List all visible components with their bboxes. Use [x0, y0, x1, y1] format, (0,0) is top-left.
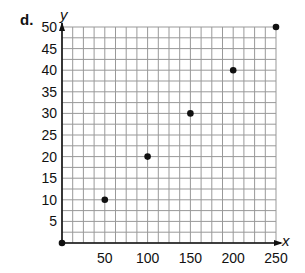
y-tick-label: 10	[41, 192, 57, 208]
y-tick-label: 15	[41, 170, 57, 186]
y-tick-label: 30	[41, 105, 57, 121]
x-tick-label: 100	[136, 250, 160, 266]
data-point	[144, 153, 151, 160]
x-axis-label: x	[281, 232, 290, 249]
y-tick-label: 5	[49, 213, 57, 229]
scatter-chart: d. 510152025303540455050100150200250 x y	[0, 0, 305, 273]
part-label: d.	[20, 11, 33, 28]
tick-labels: 510152025303540455050100150200250	[41, 19, 287, 266]
y-axis-label: y	[59, 6, 69, 23]
y-tick-label: 40	[41, 62, 57, 78]
data-point	[273, 24, 280, 31]
y-tick-label: 20	[41, 149, 57, 165]
y-tick-label: 45	[41, 41, 57, 57]
x-tick-label: 50	[97, 250, 113, 266]
x-tick-label: 200	[222, 250, 246, 266]
data-point	[230, 67, 237, 74]
grid	[62, 27, 276, 243]
data-point	[187, 110, 194, 117]
x-tick-label: 150	[179, 250, 203, 266]
data-point	[102, 197, 109, 204]
y-tick-label: 50	[41, 19, 57, 35]
axes	[59, 22, 283, 246]
data-point	[59, 240, 66, 247]
y-tick-label: 25	[41, 127, 57, 143]
x-tick-label: 250	[264, 250, 288, 266]
y-tick-label: 35	[41, 84, 57, 100]
